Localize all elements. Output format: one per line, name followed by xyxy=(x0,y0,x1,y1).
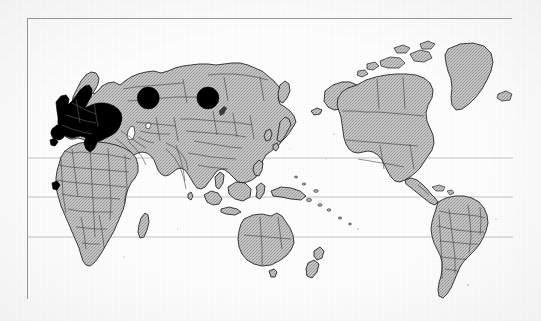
map-frame xyxy=(27,18,512,299)
marker-2[interactable] xyxy=(197,87,219,109)
region-tasmania xyxy=(269,269,277,277)
world-map[interactable] xyxy=(28,19,513,300)
figure-container: World map with highlighted regions xyxy=(0,0,541,321)
marker-1[interactable] xyxy=(137,87,159,109)
